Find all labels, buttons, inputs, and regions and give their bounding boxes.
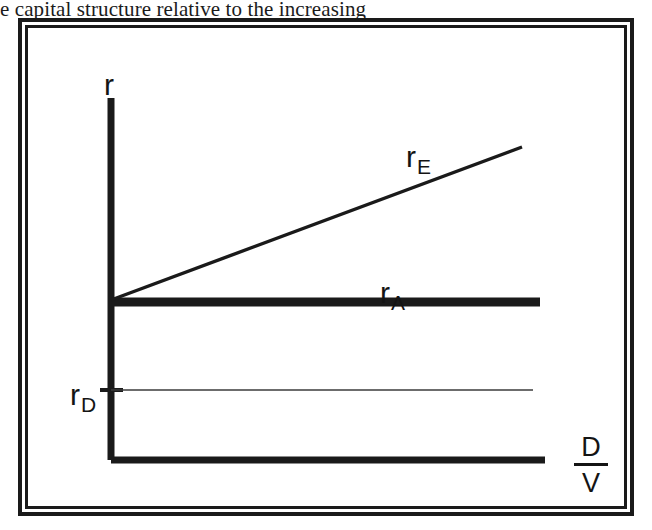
curve-label-ra-subscript: A — [391, 291, 405, 314]
x-axis-label-numerator: D — [568, 432, 614, 462]
figure-inner-border: r rE rA rD D V — [25, 25, 627, 509]
plot-area: r rE rA rD D V — [28, 28, 630, 512]
y-axis-tick-label-rd: rD — [70, 380, 95, 410]
y-axis-label-r: r — [104, 70, 114, 100]
x-axis-label-dv: D V — [568, 432, 614, 498]
y-axis-tick-label-symbol: r — [70, 378, 80, 411]
curve-label-ra: rA — [380, 278, 404, 308]
curve-label-re: rE — [406, 142, 430, 172]
x-axis-label-denominator: V — [568, 468, 614, 498]
curve-label-re-symbol: r — [406, 140, 416, 173]
curve-line-re — [111, 147, 522, 300]
cost-of-capital-plot — [28, 28, 630, 512]
curve-label-ra-symbol: r — [380, 276, 390, 309]
y-axis-tick-label-subscript: D — [81, 393, 96, 416]
curve-label-re-subscript: E — [417, 155, 431, 178]
y-axis-label-symbol: r — [104, 68, 114, 101]
figure-outer-border: r rE rA rD D V — [18, 18, 634, 516]
x-axis-label-fraction-bar — [574, 463, 608, 466]
